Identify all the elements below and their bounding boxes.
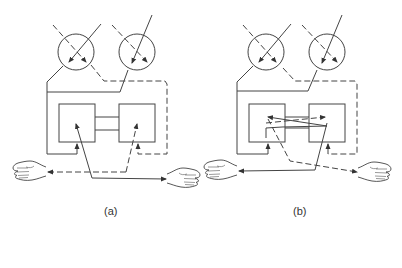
dashed-output-path bbox=[126, 124, 137, 172]
dashed-input-arrow bbox=[112, 25, 147, 62]
dashed-input-arrow bbox=[53, 25, 86, 62]
right-hand-icon bbox=[167, 168, 200, 187]
solid-input-arrow bbox=[69, 24, 101, 62]
dashed-input-arrow bbox=[243, 25, 276, 62]
left-hand-icon bbox=[13, 161, 46, 180]
panel-b bbox=[204, 15, 391, 181]
diagram-canvas bbox=[0, 0, 402, 268]
panel-a bbox=[13, 15, 200, 187]
left-hand-icon bbox=[204, 160, 237, 179]
solid-feedback-loop bbox=[237, 66, 268, 154]
solid-input-arrow bbox=[259, 24, 291, 62]
dashed-feedback-loop bbox=[91, 65, 167, 154]
solid-output-path-to-hand bbox=[92, 178, 166, 179]
solid-output-path bbox=[76, 124, 92, 178]
caption-a: (a) bbox=[104, 205, 117, 217]
dashed-feedback-loop bbox=[283, 68, 357, 154]
right-hand-icon bbox=[358, 162, 391, 181]
left-box bbox=[59, 104, 95, 142]
solid-feedback-loop bbox=[47, 66, 77, 154]
caption-b: (b) bbox=[293, 205, 306, 217]
right-box bbox=[119, 104, 155, 142]
dashed-input-arrow bbox=[302, 25, 337, 62]
